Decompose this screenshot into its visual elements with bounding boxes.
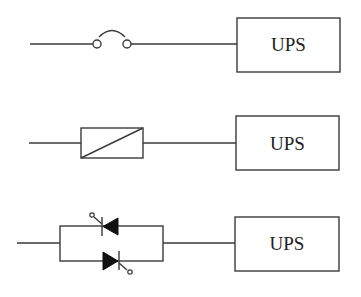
switch-arc-icon [99,31,125,38]
row-converter: UPS [29,116,339,170]
row-switch: UPS [30,18,340,72]
ups-label: UPS [271,34,306,55]
ups-label: UPS [270,133,305,154]
ups-connection-diagram: UPS UPS UPS [0,0,361,297]
contact-left-icon [93,40,101,48]
thyristor-upper-icon [90,213,118,236]
row-thyristors: UPS [17,213,339,274]
ups-label: UPS [270,233,305,254]
contact-right-icon [123,40,131,48]
thyristor-lower-icon [103,251,132,274]
